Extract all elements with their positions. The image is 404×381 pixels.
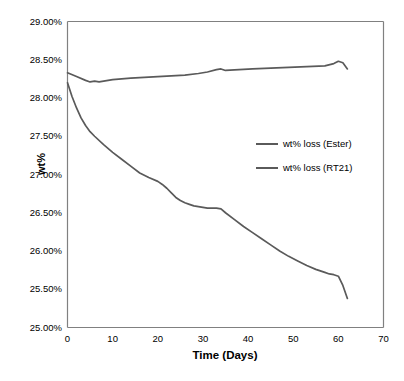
- chart-legend: wt% loss (Ester) wt% loss (RT21): [256, 138, 353, 173]
- x-tick-label: 60: [323, 333, 353, 344]
- legend-label-rt21: wt% loss (RT21): [283, 162, 353, 173]
- x-tick-label: 70: [369, 333, 399, 344]
- x-tick-label: 50: [278, 333, 308, 344]
- plot-area: [0, 0, 404, 381]
- legend-item-rt21: wt% loss (RT21): [256, 162, 353, 173]
- legend-line-swatch-rt21: [256, 167, 278, 169]
- x-tick-label: 0: [53, 333, 83, 344]
- x-tick-label: 30: [188, 333, 218, 344]
- series-line-ester: [68, 61, 348, 82]
- data-series: [68, 61, 348, 298]
- x-tick-label: 40: [233, 333, 263, 344]
- x-tick-label: 20: [143, 333, 173, 344]
- x-axis-title: Time (Days): [67, 349, 383, 361]
- legend-item-ester: wt% loss (Ester): [256, 138, 353, 149]
- axes: [68, 22, 384, 328]
- x-tick-label: 10: [98, 333, 128, 344]
- legend-line-swatch-ester: [256, 143, 278, 145]
- chart-container: 25.00%25.50%26.00%26.50%27.00%27.50%28.0…: [0, 0, 404, 381]
- legend-label-ester: wt% loss (Ester): [283, 138, 352, 149]
- series-line-rt21: [68, 83, 348, 299]
